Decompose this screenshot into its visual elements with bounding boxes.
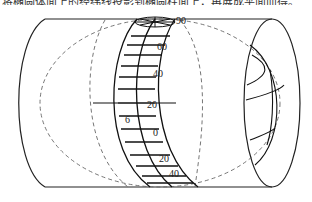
- label-zone-width: 6: [125, 114, 130, 125]
- cylinder-right-end: [244, 19, 300, 187]
- label-lat-40-s: 40: [169, 168, 179, 179]
- label-lat-20-n: 20: [147, 99, 157, 110]
- label-lat-90: 90: [176, 15, 186, 26]
- label-lat-40-n: 40: [153, 68, 163, 79]
- label-lat-20-s: 20: [159, 153, 169, 164]
- label-lat-0: 0: [153, 127, 158, 138]
- end-graticule: [246, 45, 284, 165]
- cylinder-left-edge: [19, 19, 45, 187]
- projection-diagram: 90 60 40 20 6 0 20 40: [0, 0, 312, 202]
- pole-rosette: [135, 17, 175, 27]
- zone-edge-dashed: [180, 20, 203, 187]
- label-lat-60: 60: [157, 41, 167, 52]
